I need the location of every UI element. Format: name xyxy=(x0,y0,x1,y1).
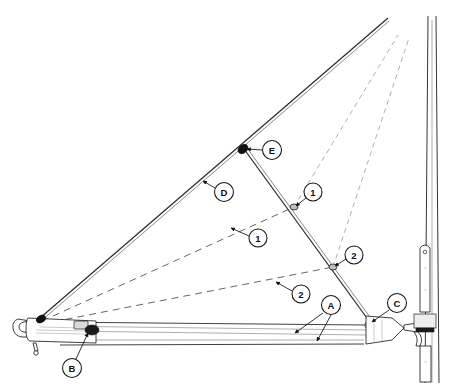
callout-E-label: E xyxy=(269,145,275,156)
callout-group: A B C D E xyxy=(63,141,407,378)
callout-1-upper[interactable]: 1 xyxy=(296,183,322,206)
technical-line-drawing: A B C D E xyxy=(0,0,449,390)
pole-left-plunger-knob xyxy=(85,325,99,335)
callout-2-upper-leader xyxy=(335,259,346,266)
pole-left-trigger xyxy=(33,343,38,351)
callout-A-leader-2 xyxy=(317,315,331,341)
callout-A-leader-1 xyxy=(295,313,323,333)
callout-2-upper-label: 2 xyxy=(351,250,356,261)
callout-1-lower[interactable]: 1 xyxy=(231,228,267,247)
callout-2-lower-leader xyxy=(276,282,292,291)
mast-track-upper xyxy=(420,245,430,312)
mast-gooseneck-lever xyxy=(414,332,422,346)
callout-1-lower-label: 1 xyxy=(255,233,261,244)
pole-tube-bottom-edge xyxy=(60,344,364,345)
alt-lift-line-1 xyxy=(42,207,294,321)
callout-C-label: C xyxy=(394,298,401,309)
callout-2-lower[interactable]: 2 xyxy=(276,282,310,303)
callout-A-label: A xyxy=(328,300,335,311)
callout-1-lower-leader xyxy=(231,228,249,236)
callout-1-upper-label: 1 xyxy=(310,187,316,198)
callout-2-lower-label: 2 xyxy=(298,289,303,300)
alt-lift-line-2 xyxy=(42,267,333,324)
mast-track-lower xyxy=(420,346,431,382)
rigging-lines xyxy=(40,18,409,325)
alt-lift-line-2-to-mast xyxy=(333,38,409,267)
pole-right-end-cone xyxy=(366,316,404,344)
callout-D-label: D xyxy=(221,187,228,198)
alt-lift-line-1-to-mast xyxy=(294,35,398,207)
node-2-fitting xyxy=(329,264,337,270)
mast-assembly xyxy=(414,16,439,383)
callout-E[interactable]: E xyxy=(247,141,282,160)
callout-E-leader xyxy=(247,149,262,150)
mast-gooseneck-pin xyxy=(416,328,434,332)
spinnaker-pole-body xyxy=(13,313,418,355)
mast-right-edge xyxy=(436,16,439,383)
topping-lift-line xyxy=(40,18,388,318)
diagram-canvas: A B C D E xyxy=(0,0,449,390)
callout-B-label: B xyxy=(69,363,76,374)
callout-D-leader xyxy=(203,181,215,188)
callout-1-upper-leader xyxy=(296,198,306,206)
mast-track-pin xyxy=(423,250,427,254)
mast-gooseneck-car xyxy=(414,314,436,328)
pole-left-pivot-pin xyxy=(34,351,38,355)
callout-D[interactable]: D xyxy=(203,181,234,202)
